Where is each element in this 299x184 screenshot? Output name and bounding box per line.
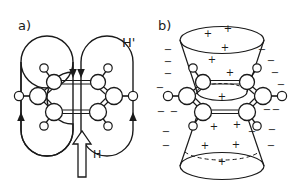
svg-text:+: + [210,121,218,132]
svg-text:−: − [162,140,170,151]
svg-text:−: − [170,106,178,117]
svg-text:−: − [157,106,165,117]
svg-text:+: + [201,140,209,151]
svg-text:−: − [271,67,279,78]
svg-text:+: + [208,54,216,65]
svg-text:−: − [164,56,172,67]
benzene-molecule-panel-a [14,64,137,130]
svg-text:+: + [218,91,226,102]
svg-text:−: − [267,140,275,151]
svg-text:−: − [156,82,164,93]
svg-text:+: + [233,119,241,130]
svg-text:−: − [277,79,285,90]
panel-b: b) + + + + + + + + [156,18,287,180]
right-loop-arrowhead-down [77,69,85,78]
applied-field-arrow [73,131,91,177]
svg-text:−: − [272,104,280,115]
svg-text:−: − [268,124,276,135]
svg-text:−: − [164,68,172,79]
panel-b-label: b) [158,18,171,33]
panel-a-label: a) [18,18,31,33]
panel-a: a) H' [14,18,137,177]
benzene-ring-current-diagram: a) H' [0,0,299,184]
svg-text:+: + [218,156,226,167]
svg-text:+: + [224,23,232,34]
left-loop-arrowhead-up [17,112,25,121]
figure-canvas: a) H' [0,0,299,184]
right-loop-arrowhead-up [129,112,137,121]
svg-text:−: − [164,44,172,55]
svg-text:+: + [232,139,240,150]
svg-text:+: + [226,67,234,78]
applied-field-label: H [93,148,101,161]
svg-text:−: − [162,126,170,137]
svg-text:+: + [204,28,212,39]
svg-text:−: − [258,44,266,55]
induced-field-label: H' [122,35,135,50]
svg-text:−: − [263,104,271,115]
svg-text:+: + [221,42,229,53]
svg-text:−: − [248,126,256,137]
svg-text:−: − [267,55,275,66]
